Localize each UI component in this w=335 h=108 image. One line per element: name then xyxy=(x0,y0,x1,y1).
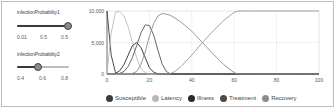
legend-dot-icon xyxy=(106,95,113,102)
legend-label: Illness xyxy=(197,95,214,101)
legend-label: Latency xyxy=(161,95,182,101)
slider-knob[interactable] xyxy=(34,63,42,71)
slider-tick: 0.4 xyxy=(17,75,24,81)
chart-grid xyxy=(107,11,319,74)
svg-text:0: 0 xyxy=(106,77,109,83)
legend-label: Recovery xyxy=(271,95,296,101)
svg-text:60: 60 xyxy=(231,77,237,83)
svg-text:0: 0 xyxy=(101,71,104,77)
legend-label: Susceptible xyxy=(115,95,146,101)
legend-label: Treatment xyxy=(229,95,256,101)
slider-infection-probability-2[interactable] xyxy=(17,66,69,68)
slider-knob[interactable] xyxy=(64,22,72,30)
legend-dot-icon xyxy=(188,95,195,102)
svg-text:40: 40 xyxy=(189,77,195,83)
line-chart: 02040608010005,00010,000 xyxy=(84,2,334,86)
app-frame: infectionProbability1 0.01 0.5 0.5 infec… xyxy=(1,1,334,107)
legend-item-latency[interactable]: Latency xyxy=(152,95,182,102)
slider-tick: 0.01 xyxy=(17,34,27,40)
legend-item-susceptible[interactable]: Susceptible xyxy=(106,95,146,102)
legend-item-recovery[interactable]: Recovery xyxy=(262,95,296,102)
legend-dot-icon xyxy=(220,95,227,102)
svg-text:10,000: 10,000 xyxy=(89,8,105,14)
legend-item-treatment[interactable]: Treatment xyxy=(220,95,256,102)
slider-tick: 0.5 xyxy=(61,34,68,40)
svg-text:80: 80 xyxy=(274,77,280,83)
slider-fill xyxy=(17,25,69,27)
svg-text:5,000: 5,000 xyxy=(91,40,104,46)
slider-infection-probability-1[interactable] xyxy=(17,25,69,27)
slider-tick: 0.8 xyxy=(61,75,68,81)
legend-dot-icon xyxy=(262,95,269,102)
svg-text:100: 100 xyxy=(315,77,324,83)
slider-tick: 0.5 xyxy=(40,34,47,40)
slider-label-infection-probability-1: infectionProbability1 xyxy=(17,9,60,15)
chart-legend: SusceptibleLatencyIllnessTreatmentRecove… xyxy=(106,92,331,104)
svg-text:20: 20 xyxy=(147,77,153,83)
slider-tick: 0.6 xyxy=(39,75,46,81)
legend-item-illness[interactable]: Illness xyxy=(188,95,214,102)
legend-dot-icon xyxy=(152,95,159,102)
slider-label-infection-probability-2: infectionProbability2 xyxy=(17,51,60,57)
